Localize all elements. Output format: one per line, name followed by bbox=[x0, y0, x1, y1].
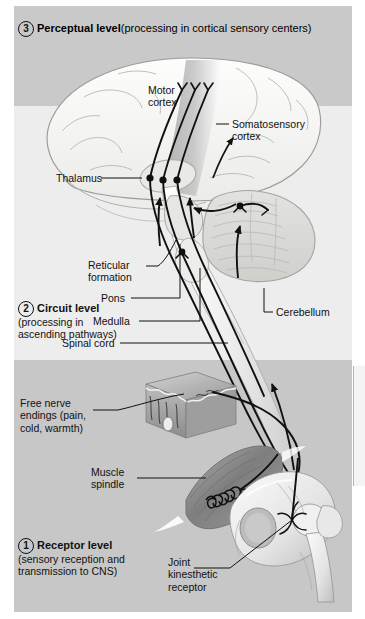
level-3-header: Perceptual level(processing in cortical … bbox=[37, 22, 312, 35]
arrow-ascending-1 bbox=[159, 198, 161, 246]
muscle-line1: Muscle bbox=[91, 466, 124, 478]
joint-kinesthetic-receptor-label: Jointkinestheticreceptor bbox=[168, 556, 218, 593]
free-nerve-line1: Free nerve bbox=[20, 397, 71, 409]
muscle-spindle-label: Musclespindle bbox=[91, 466, 124, 491]
reticular-line1: Reticular bbox=[88, 259, 129, 271]
free-nerve-line3: cold, warmth) bbox=[20, 422, 83, 434]
sensory-integration-figure: 3 Perceptual level(processing in cortica… bbox=[0, 0, 365, 619]
cerebellum-label: Cerebellum bbox=[276, 306, 330, 318]
motor-cortex-line1: Motor bbox=[148, 84, 175, 96]
level-1-number: 1 bbox=[18, 538, 34, 554]
somatosensory-line1: Somatosensory bbox=[232, 118, 305, 130]
level-2-desc-line1: (processing in bbox=[18, 316, 83, 328]
level-1-desc-line2: transmission to CNS) bbox=[18, 565, 117, 577]
level-2-description: (processing inascending pathways) bbox=[18, 316, 117, 341]
level-1-desc-line1: (sensory reception and bbox=[18, 553, 125, 565]
reticular-line2: formation bbox=[88, 271, 132, 283]
somatosensory-line2: cortex bbox=[232, 130, 261, 142]
joint-line3: receptor bbox=[168, 581, 207, 593]
free-nerve-line2: endings (pain, bbox=[20, 409, 86, 421]
motor-cortex-label: Motorcortex bbox=[148, 84, 177, 109]
level-1-description: (sensory reception andtransmission to CN… bbox=[18, 553, 125, 578]
level-2-desc-line2: ascending pathways) bbox=[18, 328, 117, 340]
motor-cortex-line2: cortex bbox=[148, 96, 177, 108]
level-3-title: Perceptual level bbox=[37, 22, 121, 34]
joint-line1: Joint bbox=[168, 556, 190, 568]
level-1-title: Receptor level bbox=[37, 539, 112, 551]
muscle-line2: spindle bbox=[91, 478, 124, 490]
joint-line2: kinesthetic bbox=[168, 568, 218, 580]
somatosensory-cortex-label: Somatosensorycortex bbox=[232, 118, 305, 143]
thalamus-label: Thalamus bbox=[56, 172, 102, 184]
level-3-description: (processing in cortical sensory centers) bbox=[121, 22, 312, 34]
free-nerve-endings-label: Free nerveendings (pain,cold, warmth) bbox=[20, 397, 86, 434]
level-3-number: 3 bbox=[18, 21, 34, 37]
level-2-title: Circuit level bbox=[37, 302, 99, 314]
pons-label: Pons bbox=[101, 292, 125, 304]
reticular-formation-label: Reticularformation bbox=[88, 259, 132, 284]
level-2-number: 2 bbox=[18, 301, 34, 317]
